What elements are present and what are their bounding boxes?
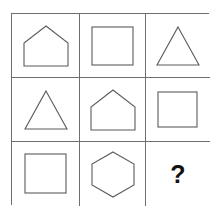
puzzle-root: ?: [0, 0, 221, 217]
matrix-cell-r2c2[interactable]: [80, 78, 146, 142]
square-icon: [155, 89, 201, 131]
question-mark-icon: ?: [170, 162, 185, 187]
matrix-cell-r3c2[interactable]: [80, 142, 146, 206]
pentagon-house-icon: [20, 22, 72, 70]
matrix-cell-r1c2[interactable]: [80, 14, 146, 78]
hexagon-icon: [87, 149, 139, 199]
matrix-cell-r3c3[interactable]: ?: [146, 142, 210, 206]
matrix-cell-r1c3[interactable]: [146, 14, 210, 78]
matrix-grid: ?: [11, 13, 209, 205]
triangle-icon: [21, 87, 71, 133]
matrix-cell-r2c1[interactable]: [12, 78, 80, 142]
matrix-cell-r3c1[interactable]: [12, 142, 80, 206]
square-icon: [89, 24, 137, 68]
square-icon: [22, 151, 70, 197]
pentagon-house-icon: [87, 86, 139, 134]
matrix-cell-r2c3[interactable]: [146, 78, 210, 142]
triangle-icon: [153, 23, 203, 69]
matrix-cell-r1c1[interactable]: [12, 14, 80, 78]
